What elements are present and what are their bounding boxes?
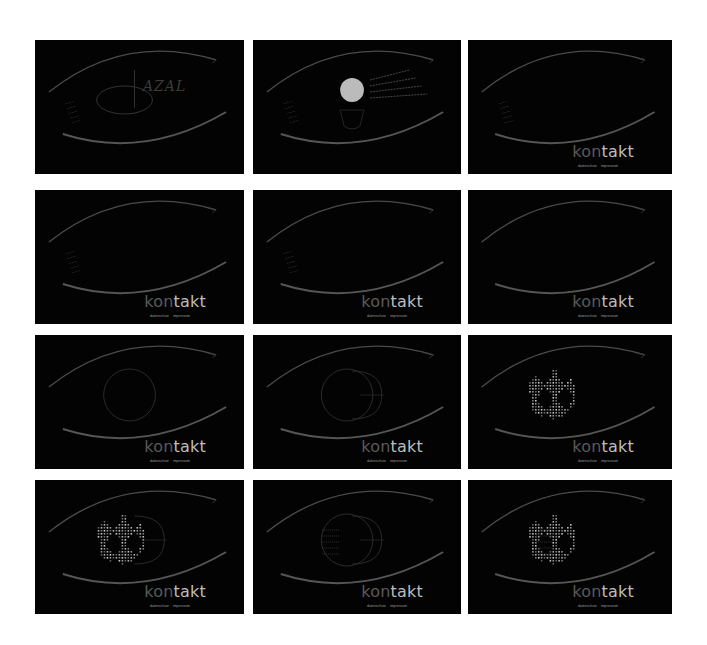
kontakt-title-dim: kon [361,292,390,311]
footer-link[interactable]: impressum [601,604,618,608]
kontakt-title: kontakt [144,439,206,455]
kontakt-title: kontakt [144,584,206,600]
eye-outline-icon [468,190,672,324]
kontakt-title-dim: kon [572,582,601,601]
kontakt-title-dim: kon [144,292,173,311]
footer-link[interactable]: datenschutz [367,314,386,318]
kontakt-title: kontakt [361,294,423,310]
footer-link[interactable]: impressum [390,604,407,608]
kontakt-title-bright: takt [391,582,423,601]
footer-links: datenschutzimpressum [578,314,622,318]
footer-link[interactable]: datenschutz [578,459,597,463]
footer-links: datenschutzimpressum [367,314,411,318]
logo: AZAL [143,78,186,94]
eye-outline-icon [35,335,244,469]
footer-links: datenschutzimpressum [578,459,622,463]
kontakt-title-dim: kon [572,142,601,161]
footer-link[interactable]: datenschutz [367,604,386,608]
storyboard-panel-11: kontaktdatenschutzimpressum [253,480,461,614]
footer-links: datenschutzimpressum [150,459,194,463]
kontakt-title-bright: takt [602,582,634,601]
kontakt-title-dim: kon [144,437,173,456]
kontakt-title: kontakt [572,144,634,160]
storyboard-panel-5: kontaktdatenschutzimpressum—————————————… [253,190,461,324]
storyboard-panel-6: kontaktdatenschutzimpressum [468,190,672,324]
kontakt-title: kontakt [144,294,206,310]
footer-link[interactable]: impressum [601,459,618,463]
kontakt-title-bright: takt [174,582,206,601]
footer-links: datenschutzimpressum [367,459,411,463]
footer-link[interactable]: impressum [390,459,407,463]
kontakt-title-bright: takt [391,437,423,456]
footer-link[interactable]: datenschutz [150,604,169,608]
kontakt-title-dim: kon [572,292,601,311]
kontakt-title-bright: takt [602,437,634,456]
storyboard-panel-8: kontaktdatenschutzimpressum [253,335,461,469]
kontakt-title-dim: kon [361,437,390,456]
storyboard-panel-1: AZAL——————————————— [35,40,244,174]
footer-links: datenschutzimpressum [578,604,622,608]
kontakt-title: kontakt [361,439,423,455]
footer-link[interactable]: impressum [173,459,190,463]
footer-link[interactable]: datenschutz [150,314,169,318]
kontakt-title-bright: takt [602,292,634,311]
storyboard-panel-12: kontaktdatenschutzimpressum [468,480,672,614]
kontakt-title-bright: takt [391,292,423,311]
storyboard-panel-7: kontaktdatenschutzimpressum [35,335,244,469]
footer-links: datenschutzimpressum [150,604,194,608]
footer-link[interactable]: impressum [173,314,190,318]
footer-link[interactable]: datenschutz [367,459,386,463]
kontakt-title-bright: takt [602,142,634,161]
footer-links: datenschutzimpressum [367,604,411,608]
storyboard-panel-9: kontaktdatenschutzimpressum [468,335,672,469]
kontakt-title: kontakt [572,439,634,455]
kontakt-title: kontakt [572,294,634,310]
footer-link[interactable]: datenschutz [150,459,169,463]
footer-links: datenschutzimpressum [150,314,194,318]
eye-outline-icon [253,335,461,469]
storyboard-panel-3: kontaktdatenschutzimpressum—————————————… [468,40,672,174]
eye-outline-icon [468,335,672,469]
eye-outline-icon [468,40,672,174]
kontakt-title-bright: takt [174,292,206,311]
storyboard-panel-10: kontaktdatenschutzimpressum [35,480,244,614]
eye-outline-icon [253,480,461,614]
footer-link[interactable]: impressum [601,314,618,318]
kontakt-title-dim: kon [361,582,390,601]
eye-outline-icon [35,480,244,614]
kontakt-title-dim: kon [144,582,173,601]
storyboard-panel-2: ——————————————— [253,40,461,174]
kontakt-title: kontakt [361,584,423,600]
footer-link[interactable]: impressum [390,314,407,318]
footer-links: datenschutzimpressum [578,164,622,168]
footer-link[interactable]: datenschutz [578,604,597,608]
footer-link[interactable]: impressum [601,164,618,168]
footer-link[interactable]: datenschutz [578,314,597,318]
kontakt-title: kontakt [572,584,634,600]
storyboard-panel-4: kontaktdatenschutzimpressum—————————————… [35,190,244,324]
kontakt-title-dim: kon [572,437,601,456]
eye-outline-icon [468,480,672,614]
footer-link[interactable]: impressum [173,604,190,608]
footer-link[interactable]: datenschutz [578,164,597,168]
kontakt-title-bright: takt [174,437,206,456]
